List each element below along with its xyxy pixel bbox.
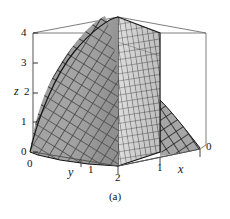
figure-caption: (a) (0, 190, 230, 202)
x-axis-label: x (178, 162, 183, 177)
z-tick-4: 4 (21, 26, 27, 38)
y-tick-1: 1 (88, 163, 94, 175)
z-tick-2: 2 (24, 85, 30, 97)
z-tick-3: 3 (21, 56, 27, 68)
z-axis-label: z (14, 84, 19, 99)
y-tick-2: 2 (115, 171, 121, 183)
z-tick-1: 1 (21, 115, 27, 127)
y-tick-0: 0 (27, 157, 33, 169)
x-tick-0: 0 (206, 140, 212, 152)
z-tick-0: 0 (21, 145, 27, 157)
figure-container: z 4 3 2 1 0 0 y 1 2 1 x 0 (a) (0, 0, 230, 219)
x-tick-1: 1 (157, 161, 163, 173)
surface-plot-svg (0, 0, 230, 219)
y-axis-label: y (68, 165, 73, 180)
